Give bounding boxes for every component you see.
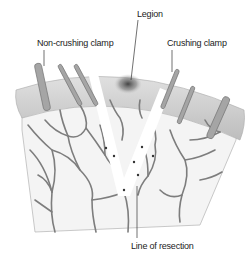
label-line-of-resection: Line of resection: [131, 241, 194, 251]
label-non-crushing-clamp: Non-crushing clamp: [37, 38, 113, 48]
label-crushing-clamp: Crushing clamp: [167, 38, 227, 48]
lesion: [114, 74, 142, 94]
label-legion: Legion: [137, 9, 163, 19]
